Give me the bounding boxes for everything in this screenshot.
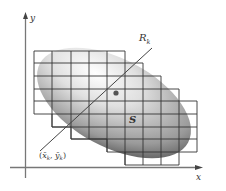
region-s-label: S <box>129 114 136 125</box>
x-axis-label: x <box>196 172 201 182</box>
centroid-point <box>113 90 118 95</box>
x-axis-arrow-icon <box>195 165 203 170</box>
x-axis <box>10 165 203 170</box>
diagram-canvas: y x Rk S (x̄k, ȳ <box>0 0 226 191</box>
line-rk-label: Rk <box>138 32 151 46</box>
y-axis-arrow-icon <box>23 12 28 19</box>
y-axis-label: y <box>29 13 36 23</box>
y-axis <box>23 12 28 178</box>
point-label: (x̄k, ȳk) <box>39 151 66 161</box>
